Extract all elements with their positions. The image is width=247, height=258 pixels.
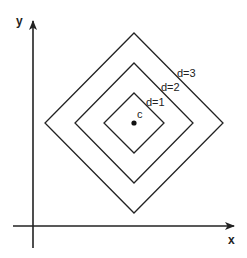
contour-label-d3: d=3 bbox=[177, 67, 196, 79]
y-axis-label: y bbox=[16, 14, 23, 28]
center-point: c bbox=[131, 108, 143, 126]
diagram-canvas: y x d=3 d=2 d=1 c bbox=[0, 0, 247, 258]
contour-label-d2: d=2 bbox=[161, 81, 180, 93]
axes: y x bbox=[13, 14, 235, 248]
center-label: c bbox=[137, 108, 143, 120]
contour-label-d1: d=1 bbox=[146, 96, 165, 108]
x-axis-label: x bbox=[228, 233, 235, 247]
center-dot bbox=[131, 120, 136, 125]
